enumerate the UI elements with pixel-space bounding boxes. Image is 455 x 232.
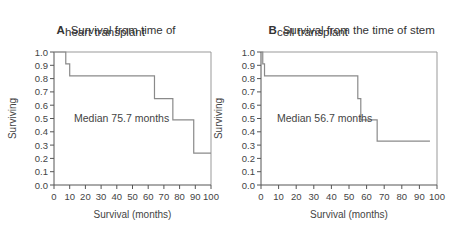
y-tick-label: 0.1 [242,166,255,177]
y-tick-label: 0.5 [35,113,48,124]
x-tick-label: 30 [309,191,320,202]
charts-canvas: 0.00.10.20.30.40.50.60.70.80.91.00102030… [0,0,455,232]
x-tick-label: 10 [64,191,75,202]
y-tick-label: 1.0 [35,47,48,58]
y-tick-label: 0.4 [242,126,255,137]
x-axis-label: Survival (months) [310,209,388,220]
y-tick-label: 0.2 [242,153,255,164]
x-tick-label: 30 [96,191,107,202]
y-tick-label: 0.6 [242,100,255,111]
x-tick-label: 50 [344,191,355,202]
y-axis-label: Surviving [7,98,18,139]
x-tick-label: 100 [203,191,219,202]
y-tick-label: 0.2 [35,153,48,164]
y-tick-label: 0.0 [242,180,255,191]
y-tick-label: 0.4 [35,126,48,137]
x-tick-label: 70 [379,191,390,202]
x-tick-label: 100 [429,191,445,202]
y-tick-label: 0.3 [242,140,255,151]
y-tick-label: 0.9 [242,60,255,71]
x-tick-label: 20 [80,191,91,202]
x-tick-label: 20 [291,191,302,202]
y-tick-label: 0.9 [35,60,48,71]
y-axis-label: Surviving [213,98,224,139]
y-tick-label: 0.6 [35,100,48,111]
x-tick-label: 80 [397,191,408,202]
x-tick-label: 0 [51,191,56,202]
y-tick-label: 0.1 [35,166,48,177]
x-tick-label: 40 [326,191,337,202]
y-tick-label: 0.8 [242,73,255,84]
survival-curve [54,52,211,153]
x-tick-label: 10 [273,191,284,202]
y-tick-label: 0.8 [35,73,48,84]
x-tick-label: 90 [414,191,425,202]
x-tick-label: 40 [112,191,123,202]
survival-curve [261,52,430,141]
y-tick-label: 0.0 [35,180,48,191]
x-tick-label: 80 [174,191,185,202]
y-tick-label: 0.7 [35,86,48,97]
chart-a: 0.00.10.20.30.40.50.60.70.80.91.00102030… [7,47,219,221]
x-tick-label: 90 [190,191,201,202]
y-tick-label: 0.5 [242,113,255,124]
y-tick-label: 0.7 [242,86,255,97]
median-annotation: Median 75.7 months [74,112,169,124]
y-tick-label: 1.0 [242,47,255,58]
x-axis-label: Survival (months) [94,209,172,220]
x-tick-label: 0 [258,191,263,202]
x-tick-label: 50 [127,191,138,202]
x-tick-label: 70 [159,191,170,202]
chart-b: 0.00.10.20.30.40.50.60.70.80.91.00102030… [213,47,445,221]
x-tick-label: 60 [143,191,154,202]
x-tick-label: 60 [361,191,372,202]
y-tick-label: 0.3 [35,140,48,151]
median-annotation: Median 56.7 months [277,112,372,124]
